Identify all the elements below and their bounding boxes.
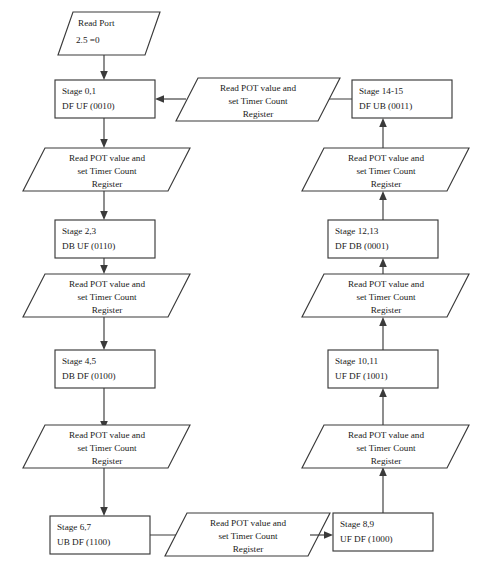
io-right-1-line2: set Timer Count — [356, 166, 416, 176]
read-port-line2: 2.5 =0 — [76, 35, 100, 45]
io-left-1-line1: Read POT value and — [69, 153, 146, 163]
connector-io-r1-to-stage1415 — [379, 118, 387, 148]
stage-1213-line1: Stage 12,13 — [335, 226, 379, 236]
stage-23-line2: DB UF (0110) — [62, 241, 115, 251]
connector-stage89-to-io-r3 — [379, 467, 387, 513]
node-stage-1011: Stage 10,11 UF DF (1001) — [328, 350, 438, 388]
stage-1415-line2: DF UB (0011) — [359, 101, 412, 111]
stage-1011-line1: Stage 10,11 — [335, 356, 378, 366]
stage-45-line1: Stage 4,5 — [62, 356, 97, 366]
node-io-right-3: Read POT value and set Timer Count Regis… — [302, 425, 469, 468]
io-left-2-line3: Register — [92, 305, 123, 315]
connector-stage1011-to-io-r2 — [379, 317, 387, 350]
stage-67-line2: UB DF (1100) — [57, 537, 110, 547]
stage-01-line2: DF UF (0010) — [62, 101, 115, 111]
io-right-1-line3: Register — [371, 179, 402, 189]
stage-01-line1: Stage 0,1 — [62, 86, 97, 96]
io-left-3-line3: Register — [92, 456, 123, 466]
connector-io-l2-to-stage45 — [100, 317, 108, 350]
node-stage-89: Stage 8,9 UF DF (1000) — [333, 513, 433, 551]
connector-io-top-to-stage01 — [155, 95, 186, 103]
node-io-bottom: Read POT value and set Timer Count Regis… — [165, 513, 330, 556]
node-io-left-1: Read POT value and set Timer Count Regis… — [23, 148, 190, 191]
io-left-3-line1: Read POT value and — [69, 430, 146, 440]
stage-89-line1: Stage 8,9 — [340, 519, 375, 529]
connector-io-r2-to-stage1213 — [379, 258, 387, 274]
connector-io-l1-to-stage23 — [100, 191, 108, 220]
io-top-line1: Read POT value and — [220, 83, 297, 93]
connector-stage23-to-io-l2 — [100, 258, 108, 274]
io-right-2-line3: Register — [371, 305, 402, 315]
node-stage-45: Stage 4,5 DB DF (0100) — [55, 350, 155, 388]
node-stage-23: Stage 2,3 DB UF (0110) — [55, 220, 155, 258]
io-right-2-line2: set Timer Count — [356, 292, 416, 302]
io-left-2-line2: set Timer Count — [77, 292, 137, 302]
node-io-left-3: Read POT value and set Timer Count Regis… — [23, 425, 190, 468]
stage-89-line2: UF DF (1000) — [340, 534, 393, 544]
connector-io-r3-to-stage1011 — [379, 388, 387, 425]
io-bottom-line3: Register — [233, 544, 264, 554]
node-io-right-1: Read POT value and set Timer Count Regis… — [302, 148, 469, 191]
io-top-line2: set Timer Count — [228, 96, 288, 106]
connector-stage45-to-io-l3 — [100, 388, 108, 430]
node-stage-67: Stage 6,7 UB DF (1100) — [50, 516, 150, 554]
read-port-line1: Read Port — [78, 18, 115, 28]
io-right-1-line1: Read POT value and — [348, 153, 425, 163]
stage-1011-line2: UF DF (1001) — [335, 371, 388, 381]
io-bottom-line1: Read POT value and — [210, 518, 287, 528]
io-left-2-line1: Read POT value and — [69, 279, 146, 289]
node-stage-01: Stage 0,1 DF UF (0010) — [55, 80, 155, 118]
stage-45-line2: DB DF (0100) — [62, 371, 116, 381]
io-top-line3: Register — [243, 109, 274, 119]
stage-23-line1: Stage 2,3 — [62, 226, 97, 236]
node-io-top: Read POT value and set Timer Count Regis… — [176, 78, 340, 121]
node-io-left-2: Read POT value and set Timer Count Regis… — [23, 274, 190, 317]
io-right-3-line1: Read POT value and — [348, 430, 425, 440]
node-io-right-2: Read POT value and set Timer Count Regis… — [302, 274, 469, 317]
io-left-1-line2: set Timer Count — [77, 166, 137, 176]
connector-io-l3-to-stage67 — [100, 468, 108, 516]
connector-stage01-to-io-l1 — [100, 118, 108, 148]
connector-start-to-stage01 — [100, 55, 108, 80]
io-left-1-line3: Register — [92, 179, 123, 189]
node-stage-1415: Stage 14-15 DF UB (0011) — [352, 80, 452, 118]
node-read-port: Read Port 2.5 =0 — [58, 12, 160, 55]
io-left-3-line2: set Timer Count — [77, 443, 137, 453]
stage-1415-line1: Stage 14-15 — [359, 86, 404, 96]
flowchart-diagram: Read Port 2.5 =0 Stage 0,1 DF UF (0010) … — [0, 0, 483, 571]
io-bottom-line2: set Timer Count — [218, 531, 278, 541]
node-stage-1213: Stage 12,13 DF DB (0001) — [328, 220, 438, 258]
io-right-3-line3: Register — [371, 456, 402, 466]
connector-stage1213-to-io-r1 — [379, 191, 387, 220]
stage-67-line1: Stage 6,7 — [57, 522, 92, 532]
io-right-2-line1: Read POT value and — [348, 279, 425, 289]
stage-1213-line2: DF DB (0001) — [335, 241, 389, 251]
io-right-3-line2: set Timer Count — [356, 443, 416, 453]
